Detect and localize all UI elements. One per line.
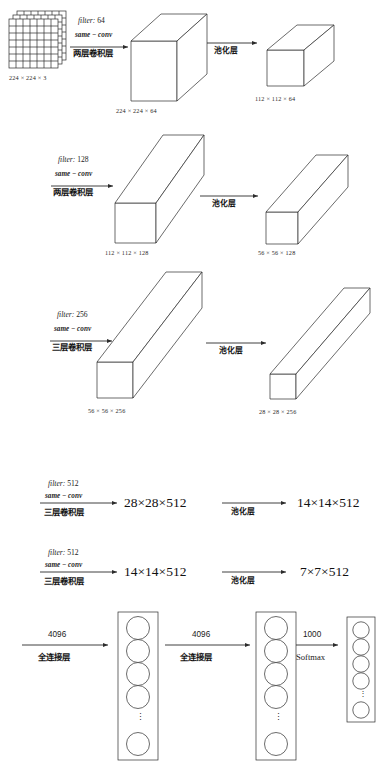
fc1-layer-label: 全连接层 [38, 653, 70, 661]
stage5-conv-type: same − conv [45, 562, 82, 569]
arrow-pool-3 [206, 341, 266, 345]
stage4-filter-value: 512 [67, 479, 78, 488]
box-pool1 [267, 25, 334, 86]
stage2-conv-type: same − conv [55, 171, 92, 178]
stage3-pool-label: 池化层 [219, 347, 243, 355]
stage2-pool-label: 池化层 [212, 200, 236, 208]
softmax-ellipsis-icon: ⋮ [359, 690, 367, 698]
stage4-conv-layers-label: 三层卷积层 [44, 508, 84, 516]
stage5-conv-layers-label: 三层卷积层 [44, 577, 84, 585]
stage2-filter-prefix: filter [58, 155, 73, 164]
stage3-pooled-caption: 28 × 28 × 256 [259, 409, 296, 415]
stage3-conv-layers-label: 三层卷积层 [52, 343, 92, 351]
stage1-pooled-caption: 112 × 112 × 64 [255, 96, 295, 102]
stage2-output-caption: 112 × 112 × 128 [105, 250, 149, 256]
arrow-pool-4 [222, 501, 286, 505]
stage4-conv-type: same − conv [45, 493, 82, 500]
stage2-conv-layers-label: 两层卷积层 [53, 188, 93, 196]
softmax-column [347, 617, 375, 722]
fc2-units-label: 4096 [192, 631, 210, 639]
stage5-filter-value: 512 [67, 548, 78, 557]
stage3-output-caption: 56 × 56 × 256 [88, 408, 125, 414]
input-plane-front [9, 19, 58, 68]
box-pool3 [270, 288, 370, 399]
stage5-filter-prefix: filter [48, 548, 63, 557]
fc1-ellipsis-icon: ⋮ [136, 713, 145, 722]
stage4-output-caption: 28×28×512 [124, 496, 186, 510]
stage2-filter-label: filter: 128 [58, 156, 89, 164]
stage1-pool-label: 池化层 [214, 47, 238, 55]
arrow-pool-5 [222, 570, 286, 574]
stage4-pooled-caption: 14×14×512 [297, 496, 359, 510]
fc2-column [256, 612, 296, 760]
stage3-filter-prefix: filter [57, 310, 72, 319]
stage2-pooled-caption: 56 × 56 × 128 [258, 250, 295, 256]
stage1-conv-layers-label: 两层卷积层 [73, 49, 113, 57]
stage1-filter-label: filter: 64 [78, 17, 105, 25]
arrow-pool-1 [207, 41, 257, 45]
input-caption: 224 × 224 × 3 [9, 75, 46, 81]
stage1-filter-prefix: filter [78, 16, 93, 25]
stage1-output-caption: 224 × 224 × 64 [116, 108, 157, 114]
stage3-filter-label: filter: 256 [57, 311, 88, 319]
fc2-layer-label: 全连接层 [180, 653, 212, 661]
box-pool2 [266, 155, 348, 244]
arrow-conv-5 [40, 570, 117, 574]
diagram-canvas: 224 × 224 × 3 filter: 64 same − conv 两层卷… [0, 0, 385, 773]
softmax-units-label: 1000 [303, 631, 321, 639]
stage1-conv-type: same − conv [75, 32, 112, 39]
box-conv3 [97, 272, 202, 398]
fc1-units-label: 4096 [48, 631, 66, 639]
stage2-filter-value: 128 [77, 155, 88, 164]
box-conv2 [115, 135, 204, 243]
stage4-filter-prefix: filter [48, 479, 63, 488]
fc1-column [118, 612, 158, 760]
softmax-activation-label: Softmax [296, 653, 325, 662]
arrow-fc-1 [22, 643, 108, 647]
arrow-fc-2 [165, 643, 250, 647]
stage5-output-caption: 14×14×512 [124, 565, 186, 579]
stage3-filter-value: 256 [76, 310, 87, 319]
stage5-filter-label: filter: 512 [48, 549, 79, 557]
stage1-filter-value: 64 [97, 16, 105, 25]
fc2-ellipsis-icon: ⋮ [274, 713, 283, 722]
arrow-conv-4 [40, 501, 117, 505]
stage5-pooled-caption: 7×7×512 [300, 565, 349, 579]
stage3-conv-type: same − conv [54, 326, 91, 333]
stage4-filter-label: filter: 512 [48, 480, 79, 488]
arrow-pool-2 [200, 194, 258, 198]
stage5-pool-label: 池化层 [231, 577, 255, 585]
stage4-pool-label: 池化层 [231, 508, 255, 516]
box-conv1 [131, 14, 207, 101]
